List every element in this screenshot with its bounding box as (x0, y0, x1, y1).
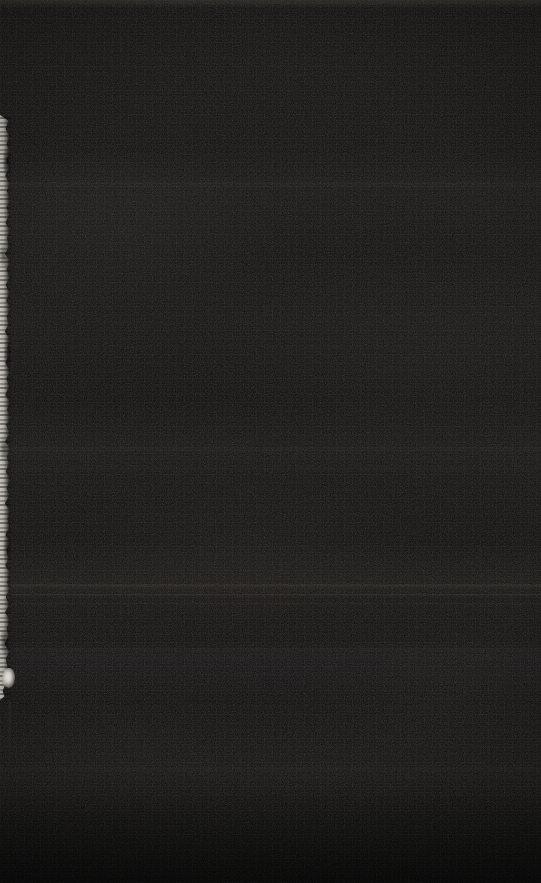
horizontal-band-450 (0, 447, 541, 452)
horizontal-band-770 (0, 767, 541, 772)
compression-block-noise (0, 0, 541, 883)
horizontal-band-588 (0, 584, 541, 588)
left-edge-light-strip (0, 115, 11, 700)
photo-frame (0, 0, 541, 883)
top-edge-band (0, 0, 541, 8)
base-dark-field (0, 0, 541, 883)
bottom-left-seam (9, 700, 11, 883)
horizontal-band-470 (0, 468, 541, 472)
horizontal-band-596 (0, 594, 541, 597)
bright-highlight-blob (2, 668, 15, 688)
horizontal-band-185 (0, 182, 541, 188)
bottom-fade-overlay (0, 793, 541, 883)
sensor-grain-noise (0, 0, 541, 883)
tonal-blotches (0, 0, 541, 883)
horizontal-band-650 (0, 648, 541, 652)
horizontal-band-604 (0, 603, 541, 606)
vignette-overlay (0, 0, 541, 883)
scanline-texture (0, 0, 541, 883)
